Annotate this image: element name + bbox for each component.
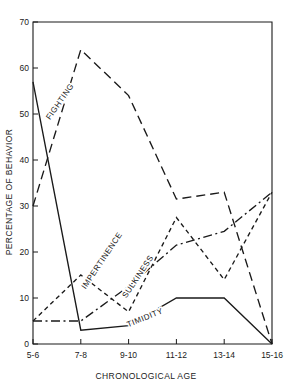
y-tick-label: 20 [20, 247, 30, 257]
x-tick-label: 5-6 [27, 350, 40, 360]
series-label-timidity: TIMIDITY [126, 306, 165, 329]
x-tick-label: 15-16 [261, 350, 283, 360]
y-tick-label: 10 [20, 293, 30, 303]
series-line-timidity [33, 82, 272, 344]
line-chart: 010203040506070 5-67-89-1011-1213-1415-1… [0, 0, 284, 385]
series-labels-group: FIGHTINGFIGHTINGIMPERTINENCEIMPERTINENCE… [44, 82, 164, 329]
plot-frame [33, 22, 272, 344]
x-tick-label: 9-10 [120, 350, 137, 360]
series-label-fighting: FIGHTING [44, 82, 76, 122]
y-axis-title: PERCENTAGE OF BEHAVIOR [4, 129, 14, 256]
chart-container: 010203040506070 5-67-89-1011-1213-1415-1… [0, 0, 284, 385]
x-tick-label: 13-14 [213, 350, 235, 360]
y-tick-label: 30 [20, 201, 30, 211]
x-axis-ticks: 5-67-89-1011-1213-1415-16 [27, 339, 283, 360]
x-axis-title: CHRONOLOGICAL AGE [96, 371, 197, 381]
y-tick-label: 50 [20, 109, 30, 119]
y-tick-label: 70 [20, 17, 30, 27]
series-label-impertinence: IMPERTINENCE [80, 231, 125, 291]
x-tick-label: 7-8 [75, 350, 88, 360]
y-tick-label: 0 [24, 339, 29, 349]
y-tick-label: 60 [20, 63, 30, 73]
series-line-sulkiness [33, 192, 272, 321]
y-tick-label: 40 [20, 155, 30, 165]
x-tick-label: 11-12 [166, 350, 187, 360]
y-axis-ticks: 010203040506070 [20, 17, 38, 349]
